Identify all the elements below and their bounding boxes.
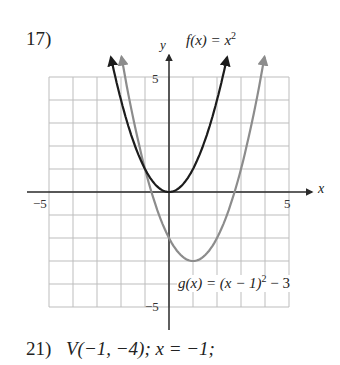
tick-x-5: 5 — [284, 196, 291, 212]
problem-number-21: 21) — [26, 338, 51, 360]
g-label-tail: − 3 — [267, 275, 290, 291]
graph-canvas — [0, 0, 340, 365]
y-axis-label: y — [160, 37, 166, 53]
g-label: g(x) = (x − 1)2 − 3 — [177, 275, 291, 292]
problem-21-answer: V(−1, −4); x = −1; — [66, 338, 215, 360]
problem-number-17: 17) — [26, 28, 51, 50]
f-label-exponent: 2 — [231, 30, 236, 41]
g-label-text: g(x) = (x − 1) — [178, 275, 262, 291]
f-label-text: f(x) = x — [186, 32, 231, 48]
tick-y-neg5: −5 — [145, 299, 159, 315]
x-axis-label: x — [318, 181, 324, 197]
f-label: f(x) = x2 — [186, 32, 236, 49]
tick-y-5: 5 — [152, 71, 159, 87]
tick-x-neg5: −5 — [33, 196, 47, 212]
